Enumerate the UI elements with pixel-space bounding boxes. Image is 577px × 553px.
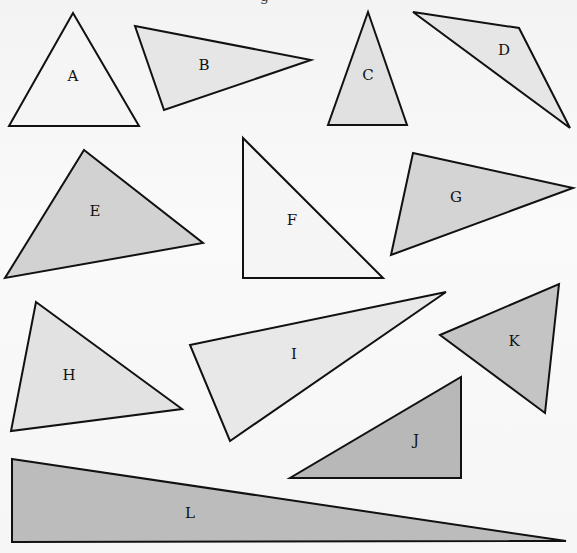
triangle-shape [5,150,203,278]
triangle-shape [135,26,311,110]
triangle-shape [12,459,566,542]
triangle-label: B [198,56,209,74]
triangle-d: D [413,12,570,128]
triangle-label: L [185,504,195,522]
triangle-label: I [291,345,297,363]
triangle-label: G [450,188,462,206]
triangle-c: C [328,12,407,125]
triangle-diagram: g ABCDEFGHIJKL [0,0,577,553]
triangle-label: K [508,332,520,350]
triangle-f: F [243,138,383,278]
triangle-shape [391,153,573,255]
triangle-j: J [290,377,461,478]
triangle-label: F [287,211,297,229]
triangle-shape [290,377,461,478]
triangle-a: A [9,13,139,126]
triangle-h: H [11,302,182,431]
triangles-svg: ABCDEFGHIJKL [0,0,577,553]
triangle-shape [243,138,383,278]
triangle-label: J [411,431,419,449]
triangle-label: A [67,67,79,85]
triangle-e: E [5,150,203,278]
triangle-label: H [62,366,75,384]
triangle-label: C [362,66,373,84]
triangle-shape [413,12,570,128]
triangle-shape [11,302,182,431]
triangle-label: D [498,41,510,59]
triangle-label: E [90,202,101,220]
triangle-g: G [391,153,573,255]
triangle-l: L [12,459,566,542]
triangle-b: B [135,26,311,110]
